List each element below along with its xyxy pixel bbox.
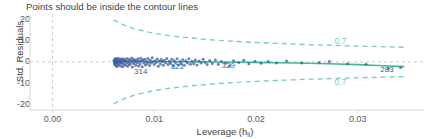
data-point [186,61,189,64]
data-point [192,62,195,65]
data-point [151,56,154,59]
lower-contour-line [113,77,403,104]
data-point [267,60,270,63]
point-id-label: 321 [171,62,184,71]
data-point [146,57,149,60]
data-point [346,62,349,65]
point-id-label: 329 [222,61,235,70]
contour-value-label: 0.7 [335,77,347,87]
data-point [206,63,209,66]
data-point [204,61,207,64]
point-id-label: 314 [134,67,147,76]
upper-contour-line [113,20,403,47]
data-point [176,57,179,60]
data-point [260,62,263,65]
data-point [237,61,240,64]
data-point [155,61,158,64]
data-point [181,58,184,61]
data-point [211,62,214,65]
data-point [159,62,162,65]
data-point [254,60,257,63]
data-point [217,63,220,66]
data-point [275,61,278,64]
data-point [202,58,205,61]
leverage-residuals-chart: Points should be inside the contour line… [0,0,427,139]
data-point [157,65,160,68]
data-point [208,59,211,62]
data-point [200,62,203,65]
data-point [189,63,192,66]
data-point [364,63,367,66]
data-point [195,64,198,67]
data-point [285,59,288,62]
plot-area [0,0,427,139]
data-point [214,59,217,62]
data-point [149,59,152,62]
data-point [247,62,250,65]
data-point [399,66,402,69]
data-point [148,64,151,67]
data-point [300,62,303,65]
data-point [121,65,124,68]
data-point [328,60,331,63]
data-point [187,57,190,60]
data-point [194,58,197,61]
data-point [165,57,168,60]
data-point [191,60,194,63]
data-point [318,61,321,64]
data-point [242,59,245,62]
data-point [139,63,142,66]
contour-value-label: 0.7 [335,36,347,46]
data-point [162,64,165,67]
point-id-label: 283 [380,65,393,74]
